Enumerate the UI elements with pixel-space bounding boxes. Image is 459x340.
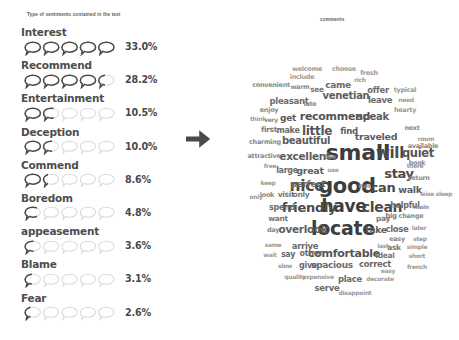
wordcloud-word: only: [249, 194, 262, 200]
sentiment-row: Entertainment10.5%: [21, 92, 181, 125]
wordcloud-word: give: [299, 262, 317, 270]
sentiment-row: Boredom4.8%: [21, 192, 181, 225]
sentiment-row: Recommend28.2%: [21, 59, 181, 92]
arrow-right-icon: [182, 124, 214, 154]
sentiment-label: Interest: [21, 26, 67, 38]
sentiment-label: Fear: [21, 292, 46, 304]
wordcloud-word: close: [385, 225, 408, 234]
wordcloud-word: typical: [394, 87, 417, 94]
wordcloud-word: wait: [263, 252, 276, 258]
wordcloud-word: spend: [269, 204, 295, 212]
wordcloud-word: very: [264, 117, 278, 123]
wordcloud-word: place: [338, 275, 362, 284]
sentiment-bubble-meter: [23, 205, 119, 221]
wordcloud-word: only: [293, 191, 310, 199]
sentiment-bubble-meter: [23, 272, 119, 288]
wordcloud-word: first: [261, 126, 277, 134]
wordcloud-word: walk: [398, 185, 422, 195]
sentiment-bubble-meter: [23, 239, 119, 255]
wordcloud-word: warm: [290, 84, 309, 91]
wordcloud-word: use: [327, 167, 338, 173]
wordcloud-word: include: [290, 74, 315, 81]
sentiment-row: appeasement3.6%: [21, 225, 181, 258]
wordcloud-word: too: [324, 154, 335, 161]
sentiment-value: 10.0%: [125, 141, 157, 152]
wordcloud-word: get: [280, 114, 296, 123]
sentiment-bubble-meter: [23, 106, 119, 122]
sentiment-value: 3.1%: [125, 273, 151, 284]
wordcloud-word: other: [300, 250, 323, 258]
sentiment-bubble-meter: [23, 40, 119, 56]
wordcloud-word: make: [276, 127, 299, 135]
sentiment-bubble-meter: [23, 73, 119, 89]
wordcloud-word: there: [407, 163, 424, 169]
wordcloud-word: convenient: [252, 82, 290, 89]
wordcloud-word: pay: [376, 215, 390, 223]
wordcloud-word: need: [398, 97, 414, 103]
sentiment-label: Boredom: [21, 192, 73, 204]
sentiment-bubble-meter: [23, 172, 119, 188]
wordcloud-word: came: [325, 81, 351, 90]
sentiment-bubble-meter: [23, 305, 119, 321]
sentiment-row: Deception10.0%: [21, 126, 181, 159]
sentiment-value: 4.8%: [125, 207, 151, 218]
wordcloud-word: day: [267, 227, 279, 234]
wordcloud-word: simple: [407, 244, 428, 250]
sentiment-row: Interest33.0%: [21, 26, 181, 59]
wordcloud-word: expensive: [302, 274, 333, 280]
wordcloud-word: excellent: [279, 151, 330, 162]
wordcloud-word: same: [265, 242, 282, 248]
wordcloud-word: short: [409, 253, 425, 259]
wordcloud-word: late: [304, 101, 317, 108]
wordcloud-word: can: [371, 181, 396, 194]
wordcloud-word: rich: [354, 77, 366, 83]
sentiment-label: Commend: [21, 159, 79, 171]
sentiment-list: Interest33.0%Recommend28.2%Entertainment…: [21, 26, 181, 325]
sentiment-label: Entertainment: [21, 92, 104, 104]
wordcloud-word: run: [358, 183, 370, 190]
sentiment-row: Blame3.1%: [21, 258, 181, 291]
wordcloud-word: beautiful: [282, 136, 330, 146]
sentiment-value: 8.6%: [125, 174, 151, 185]
wordcloud-word: want: [268, 215, 288, 223]
wordcloud-word: choose: [332, 66, 356, 73]
sentiment-row: Fear2.6%: [21, 292, 181, 325]
wordcloud-word: offer: [367, 86, 389, 95]
wordcloud-word: hearty: [394, 107, 416, 114]
wordcloud-word: sleep: [436, 191, 453, 197]
wordcloud-word: available: [408, 143, 438, 150]
wordcloud-word: keep: [260, 180, 275, 186]
wordcloud-word: slow: [278, 263, 292, 269]
wordcloud-word: enjoy: [260, 107, 278, 114]
wordcloud-word: serve: [315, 284, 340, 293]
wordcloud-word: easy: [389, 236, 405, 243]
wordcloud-word: wise: [420, 191, 434, 197]
wordcloud-word: later: [412, 225, 427, 231]
wordcloud-word: disappoint: [339, 290, 372, 296]
wordcloud-word: free: [264, 163, 277, 169]
wordcloud-word: large: [276, 167, 298, 175]
wordcloud-word: leave: [368, 96, 392, 105]
wordcloud-word: french: [407, 264, 427, 270]
sentiment-panel: Type of sentiments contained in the text…: [0, 0, 180, 340]
wordcloud-word: take: [365, 226, 386, 235]
wordcloud-word: speak: [357, 112, 389, 122]
sentiment-value: 10.5%: [125, 107, 157, 118]
wordcloud-word: step: [413, 236, 427, 242]
sentiment-value: 28.2%: [125, 74, 157, 85]
wordcloud-word: overlook: [279, 224, 328, 235]
sentiment-value: 2.6%: [125, 307, 151, 318]
wordcloud: smallgoodlocatehavenicewillcleanfriendly…: [225, 0, 459, 340]
wordcloud-word: decorate: [366, 276, 394, 282]
sentiment-value: 3.6%: [125, 240, 151, 251]
infographic-root: Type of sentiments contained in the text…: [0, 0, 459, 340]
sentiment-label: Deception: [21, 126, 79, 138]
wordcloud-word: charming: [249, 139, 281, 146]
wordcloud-word: traveled: [355, 132, 397, 142]
wordcloud-word: spacious: [311, 261, 353, 270]
wordcloud-word: easy: [381, 268, 395, 274]
wordcloud-word: welcome: [292, 66, 322, 73]
wordcloud-word: find: [340, 127, 358, 136]
wordcloud-word: ideal: [375, 252, 394, 260]
wordcloud-word: will: [376, 146, 404, 161]
